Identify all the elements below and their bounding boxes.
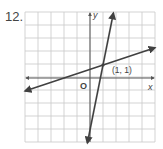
x-axis-label: x [147,82,153,92]
coordinate-plane: x y O (1, 1) [0,0,163,149]
intersection-label: (1, 1) [112,65,132,75]
intersection-point [101,63,104,66]
origin-label: O [80,81,87,91]
y-axis-label: y [92,10,98,20]
